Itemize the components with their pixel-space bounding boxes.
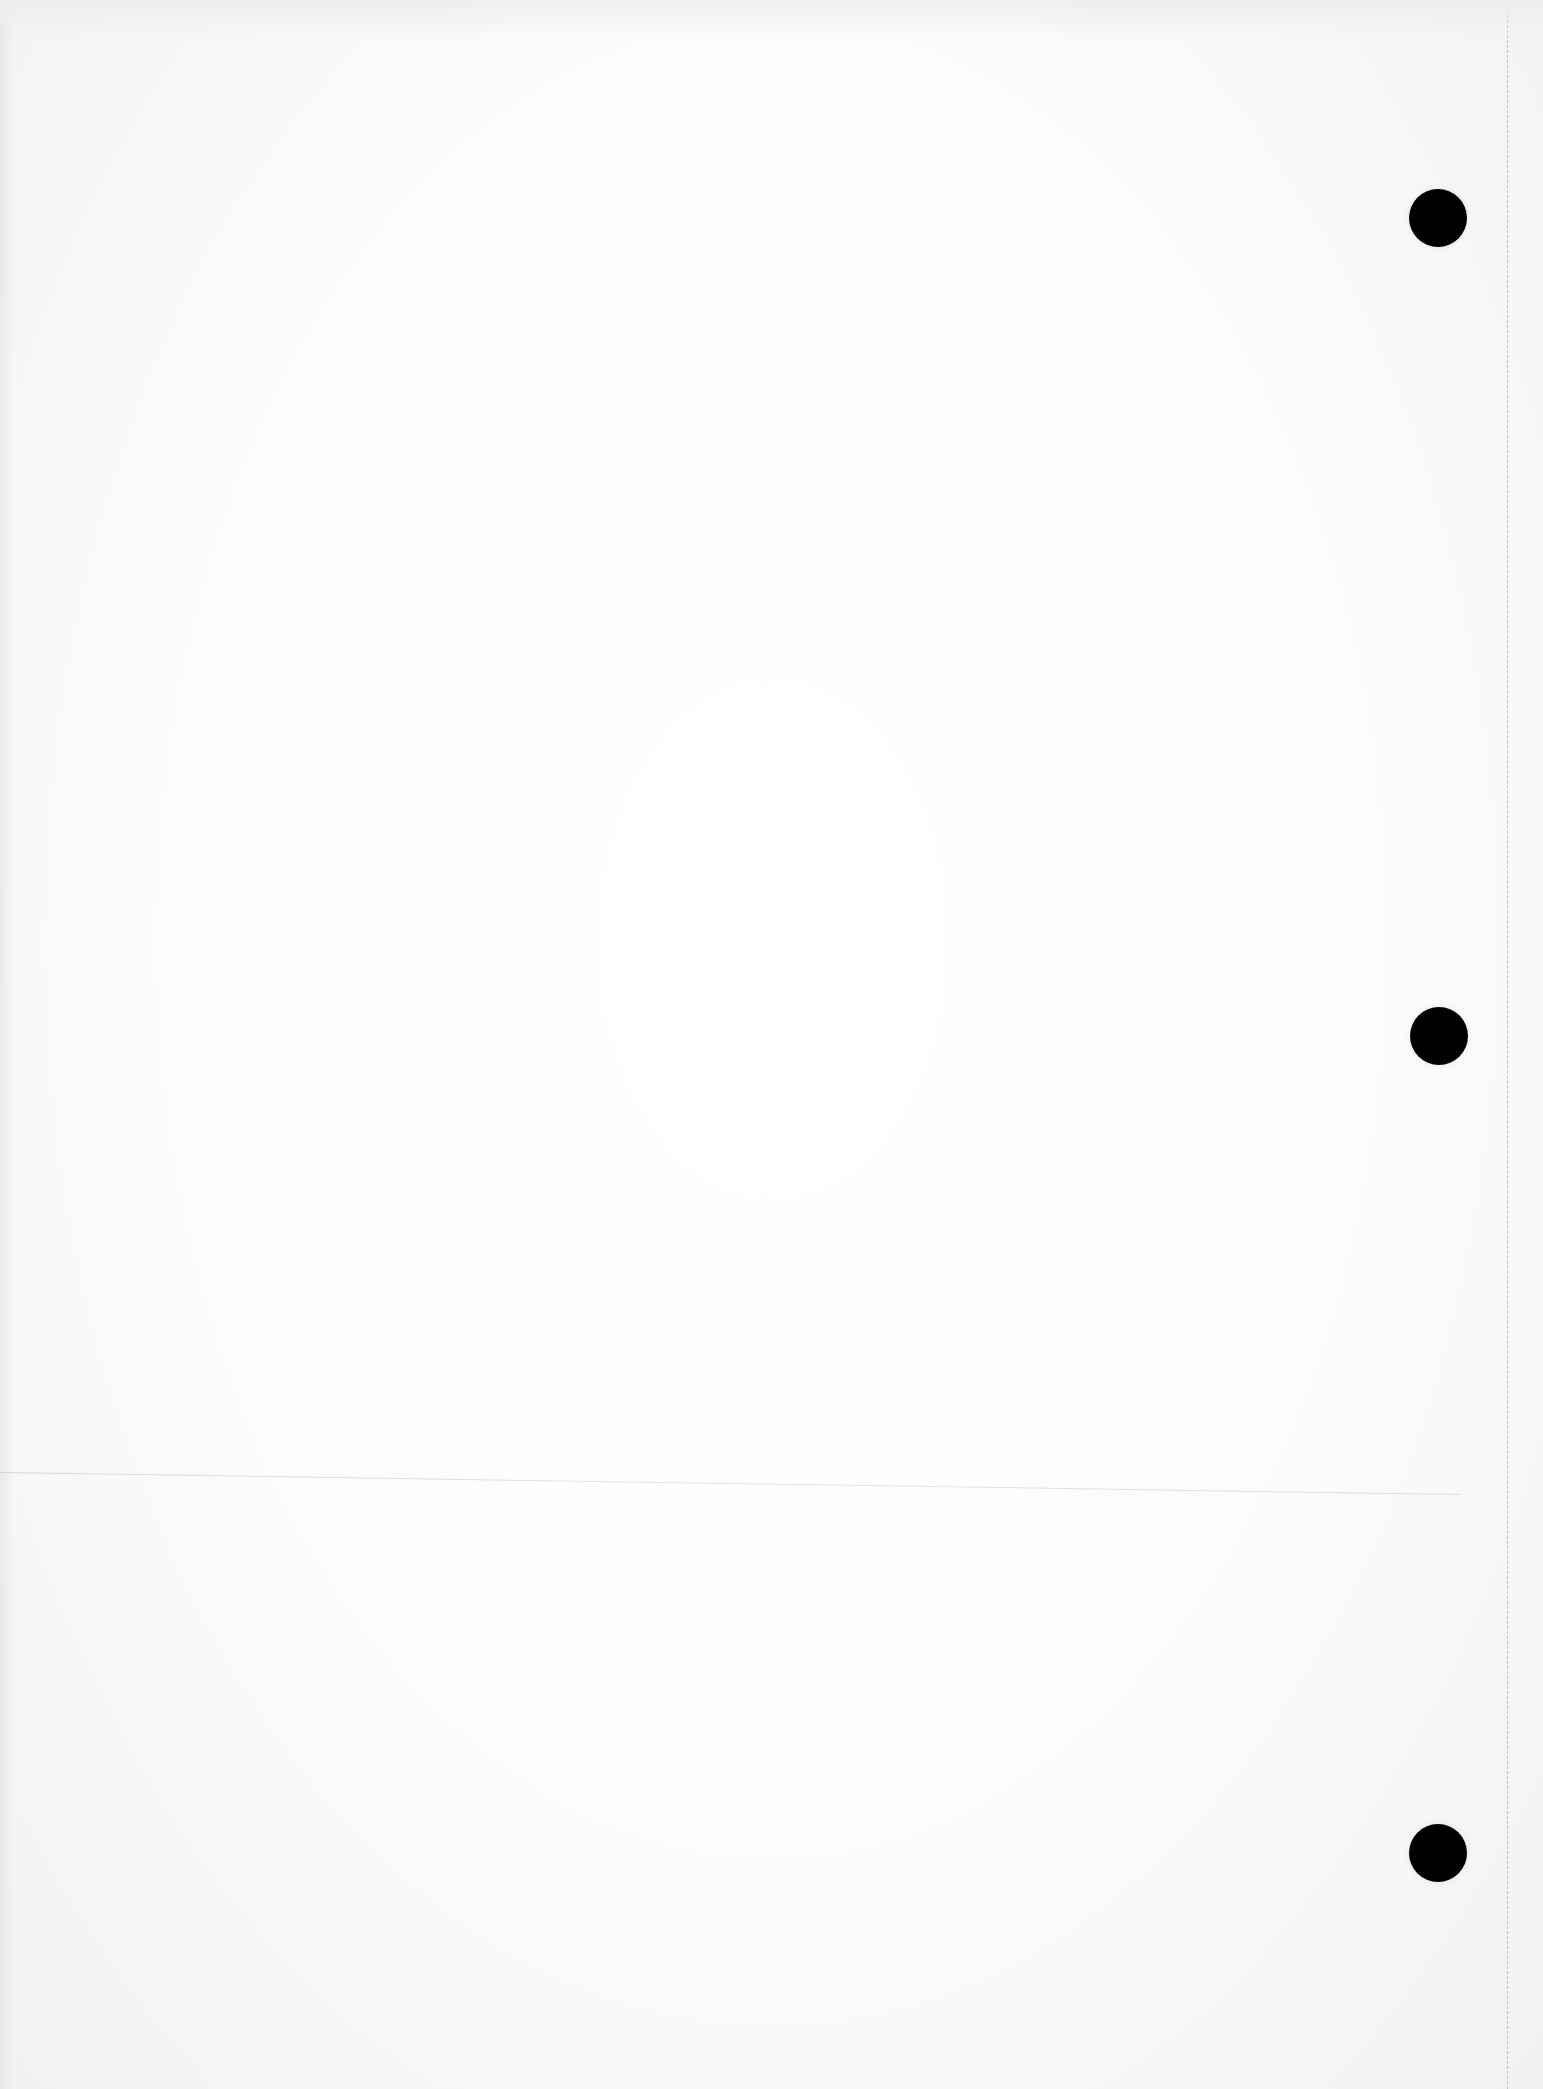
punch-hole-bottom: [1409, 1824, 1467, 1882]
blank-scanned-page: [0, 0, 1543, 2089]
perforated-edge: [1507, 0, 1508, 2089]
faint-horizontal-rule: [0, 1472, 1460, 1495]
punch-hole-top: [1409, 189, 1467, 247]
punch-hole-middle: [1410, 1007, 1468, 1065]
